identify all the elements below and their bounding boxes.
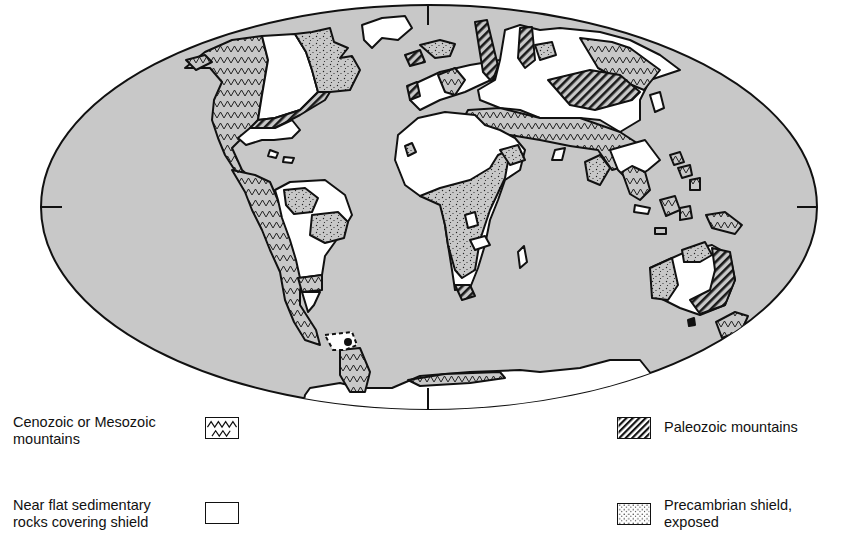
- world-geology-map: [0, 0, 858, 420]
- legend-swatch-flat-blank: [205, 502, 239, 524]
- ocean: [41, 5, 817, 409]
- legend-label-cenozoic: Cenozoic or Mesozoic mountains: [13, 414, 156, 448]
- legend-swatch-cenozoic-zigzag: [205, 417, 239, 439]
- legend-item-precambrian: Precambrian shield, exposed: [664, 497, 792, 531]
- legend-swatch-precambrian-stipple: [617, 503, 651, 525]
- legend-item-flat: Near flat sedimentary rocks covering shi…: [13, 497, 151, 531]
- legend-label-flat: Near flat sedimentary rocks covering shi…: [13, 497, 151, 531]
- legend-swatch-paleozoic-hatch: [617, 417, 651, 439]
- legend-item-paleozoic: Paleozoic mountains: [664, 419, 798, 436]
- legend-label-paleozoic: Paleozoic mountains: [664, 419, 798, 436]
- legend-item-cenozoic: Cenozoic or Mesozoic mountains: [13, 414, 156, 448]
- legend-label-precambrian: Precambrian shield, exposed: [664, 497, 792, 531]
